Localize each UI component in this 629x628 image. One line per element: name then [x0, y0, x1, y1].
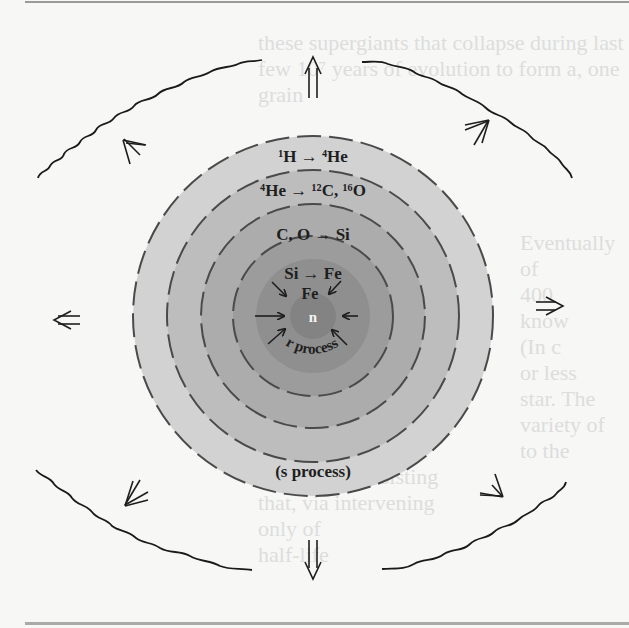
outflow-arrow-right-icon: [536, 297, 563, 315]
outflow-arrow-up-icon: [305, 57, 321, 98]
page-bottom-rule: [25, 622, 629, 625]
shock-front-lower-right: [382, 482, 566, 569]
label-he-burning: ⁴He → ¹²C, ¹⁶O: [260, 181, 366, 200]
label-si-burning: Si → Fe: [284, 264, 342, 283]
outflow-arrow-down-icon: [305, 540, 321, 579]
label-h-burning: ¹H → ⁴He: [278, 147, 348, 166]
shock-front-lower-left: [36, 470, 252, 570]
s-process-label: (s process): [275, 462, 351, 481]
outflow-arrow-upper-left-icon: [123, 139, 146, 164]
stellar-shell-diagram: ¹H → ⁴He ⁴He → ¹²C, ¹⁶O C, O → Si Si → F…: [0, 0, 629, 628]
outflow-arrow-upper-right-icon: [465, 120, 489, 145]
outflow-arrow-left-icon: [54, 311, 80, 329]
label-neutron-core: n: [309, 309, 318, 325]
label-fe-core: Fe: [302, 285, 319, 302]
outflow-arrow-lower-left-icon: [125, 480, 148, 506]
outflow-arrow-lower-right-icon: [480, 474, 503, 497]
label-c-o-burning: C, O → Si: [276, 225, 350, 244]
